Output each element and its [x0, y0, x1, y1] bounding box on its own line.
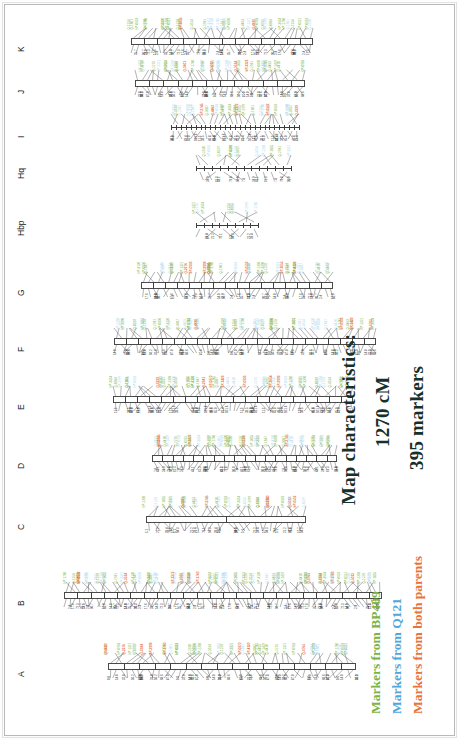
marker-label: Q-1228 [264, 263, 267, 273]
marker-position: 68.6 [216, 349, 219, 355]
marker-position: 90.7 [239, 49, 242, 55]
marker-position: 32.0 [302, 349, 305, 355]
marker-label: Q-3087 [300, 263, 303, 273]
marker-label: Q-1228 [363, 573, 366, 583]
marker-label: bP-3321 [293, 318, 296, 330]
marker-position: 14.0 [141, 674, 144, 680]
marker-label: bP-2208 [165, 18, 168, 30]
marker-label: bP-1372 [361, 318, 364, 330]
marker-position: 7.8 [236, 468, 239, 472]
marker-label: bP-1372 [283, 643, 286, 655]
marker-label: Q-0229 [262, 319, 265, 329]
marker-label: Q-3514 [175, 377, 178, 387]
marker-position: 0.0 [214, 93, 217, 97]
marker-position: 68.6 [302, 91, 305, 97]
marker-label: bP-3654 [324, 572, 327, 584]
marker-label: Q-4410 [170, 263, 173, 273]
marker-label: bP-3321 [243, 572, 246, 584]
marker-position: 72.3 [270, 603, 273, 609]
marker-label: Q-1154 [291, 19, 294, 29]
marker-label: bP-0618 [285, 376, 288, 388]
marker-label: Q-4410 [163, 436, 166, 446]
marker-position: 72.3 [265, 49, 268, 55]
marker-position: 35.7 [267, 293, 270, 299]
marker-position: 32.0 [288, 91, 291, 97]
marker-label: Q-3514 [133, 319, 136, 329]
marker-position: 90.7 [223, 293, 226, 299]
marker-label: bP-0618 [337, 572, 340, 584]
marker-label: bP-0870 [274, 435, 277, 447]
marker-position: 68.6 [374, 349, 377, 355]
marker-position: 24.9 [181, 466, 184, 472]
marker-label: Q-4410 [335, 319, 338, 329]
marker-position: 17.6 [229, 603, 232, 609]
marker-label: bP-0618 [282, 496, 285, 508]
marker-label: bP-0870 [228, 18, 231, 30]
marker-position: 35.7 [255, 603, 258, 609]
marker-label: Q-1154 [257, 497, 260, 507]
marker-label: bP-3390 [85, 572, 88, 584]
marker-label: bP-4120 [211, 18, 214, 30]
marker-label: Q-0384 [319, 436, 322, 446]
marker-label: Q-2941 [254, 436, 257, 446]
marker-position: 17.6 [306, 603, 309, 609]
marker-label: bP-2208 [168, 376, 171, 388]
marker-label: bP-0618 [240, 318, 243, 330]
marker-position: 72.3 [248, 293, 251, 299]
marker-position: 50.2 [242, 349, 245, 355]
marker-label: bP-2999 [246, 202, 249, 214]
marker-position: 90.7 [203, 49, 206, 55]
marker-position: 90.7 [294, 49, 297, 55]
marker-position: 79.8 [275, 466, 278, 472]
marker-label: bP-3390 [224, 435, 227, 447]
marker-label: bP-2208 [225, 572, 228, 584]
marker-label: bP-0870 [142, 262, 145, 274]
marker-position: 35.7 [209, 293, 212, 299]
marker-position: 94.3 [235, 527, 238, 533]
marker-label: bP-0933 [190, 262, 193, 274]
linkage-group-label-d: D [16, 463, 26, 469]
marker-position: 61.3 [327, 466, 330, 472]
marker-position: 90.7 [287, 293, 290, 299]
marker-position: 0.0 [325, 351, 328, 355]
marker-position: 46.8 [230, 135, 233, 141]
marker-position: 2.4 [169, 605, 172, 609]
marker-position: 11.3 [115, 408, 118, 413]
marker-label: Q-5012 [213, 573, 216, 583]
marker-position: 83.4 [213, 135, 216, 141]
marker-label: bP-0512 [298, 18, 301, 30]
marker-position: 17.6 [154, 49, 157, 55]
legend-q121: Markers from Q121 [389, 598, 405, 714]
marker-position: 87.0 [327, 674, 330, 680]
marker-position: 72.3 [342, 603, 345, 609]
marker-label: Q-1154 [228, 203, 231, 213]
marker-label: Q-2276 [184, 263, 187, 273]
marker-label: bP-1429 [222, 376, 225, 388]
marker-label: Q-2310 [144, 19, 147, 29]
marker-position: 2.4 [355, 605, 358, 609]
marker-position: 50.2 [132, 674, 135, 680]
marker-label: bP-0933 [178, 435, 181, 447]
marker-position: 17.6 [72, 603, 75, 609]
connector-lines-b [64, 558, 382, 628]
marker-position: 35.7 [314, 603, 317, 609]
marker-position: 35.7 [104, 603, 107, 609]
marker-label: Q-4463 [273, 573, 276, 583]
linkage-group-label-c: C [16, 524, 26, 530]
marker-label: Q-5012 [351, 573, 354, 583]
marker-label: bP-0512 [345, 572, 348, 584]
marker-label: Q-1228 [239, 436, 242, 446]
marker-position: 50.2 [272, 349, 275, 355]
marker-position: 90.7 [347, 603, 350, 609]
marker-label: Q-2276 [350, 319, 353, 329]
marker-label: bP-3654 [202, 202, 205, 214]
marker-position: 0.0 [207, 676, 210, 680]
marker-label: Q-0384 [140, 644, 143, 654]
marker-position: 35.7 [241, 293, 244, 299]
marker-position: 65.0 [130, 407, 133, 413]
marker-position: 14.0 [144, 349, 147, 355]
marker-position: 17.6 [279, 49, 282, 55]
linkage-group-label-e: E [16, 404, 26, 410]
marker-position: 21.2 [157, 527, 160, 533]
marker-position: 17.6 [145, 603, 148, 609]
